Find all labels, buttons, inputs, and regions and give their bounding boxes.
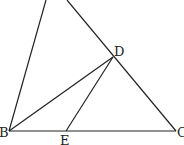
label-e: E [60,133,70,145]
label-c: C [177,125,184,140]
segment-de [66,57,113,131]
segment-ac [67,0,176,131]
label-b: B [0,125,9,140]
segment-ab [9,0,46,131]
geometry-diagram: B C D E [0,0,184,145]
segment-bd [9,57,113,131]
label-d: D [114,44,124,59]
